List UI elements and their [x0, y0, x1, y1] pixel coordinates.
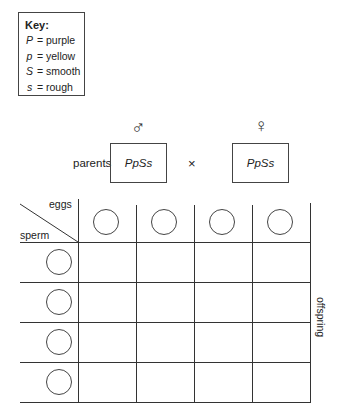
offspring-label: offspring	[315, 297, 327, 337]
offspring-cell-r4-c2[interactable]	[137, 363, 194, 402]
offspring-cell-r2-c3[interactable]	[195, 283, 252, 322]
sperm-gamete-circle-2[interactable]	[46, 289, 72, 315]
offspring-cell-r1-c2[interactable]	[137, 243, 194, 282]
sperm-gamete-circle-3[interactable]	[46, 329, 72, 355]
egg-gamete-circle-4[interactable]	[267, 209, 293, 235]
offspring-cell-r3-c1[interactable]	[79, 323, 136, 362]
offspring-cell-r1-c1[interactable]	[79, 243, 136, 282]
offspring-cell-r4-c3[interactable]	[195, 363, 252, 402]
offspring-cell-r1-c4[interactable]	[253, 243, 310, 282]
offspring-cell-r3-c3[interactable]	[195, 323, 252, 362]
egg-gamete-circle-3[interactable]	[209, 209, 235, 235]
offspring-cell-r2-c4[interactable]	[253, 283, 310, 322]
offspring-cell-r3-c2[interactable]	[137, 323, 194, 362]
offspring-cell-r3-c4[interactable]	[253, 323, 310, 362]
egg-gamete-circle-1[interactable]	[93, 209, 119, 235]
egg-gamete-circle-2[interactable]	[151, 209, 177, 235]
offspring-cell-r1-c3[interactable]	[195, 243, 252, 282]
sperm-gamete-circle-1[interactable]	[46, 249, 72, 275]
offspring-cell-r2-c1[interactable]	[79, 283, 136, 322]
sperm-label: sperm	[20, 229, 49, 241]
offspring-cell-r4-c4[interactable]	[253, 363, 310, 402]
offspring-cell-r4-c1[interactable]	[79, 363, 136, 402]
offspring-cell-r2-c2[interactable]	[137, 283, 194, 322]
sperm-gamete-circle-4[interactable]	[46, 369, 72, 395]
eggs-label: eggs	[49, 198, 72, 210]
